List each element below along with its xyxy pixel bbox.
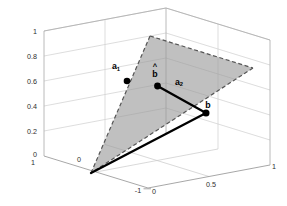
z-tick-label: 0.2 [27,127,37,136]
figure-canvas: 0 0.2 0.4 0.6 0.8 1 1 -1 0 0.5 1 0 a1 ^ … [0,0,287,206]
z-axis-tick-labels: 0 0.2 0.4 0.6 0.8 1 [27,27,37,159]
label-a1: a1 [112,61,121,72]
span-plane [91,36,253,173]
z-tick-label: 0.6 [27,77,37,86]
x-tick-label: 0 [152,187,156,196]
point-a1 [124,78,131,85]
label-a2-sub: 2 [180,81,183,87]
box-edge-y-axis [44,156,148,188]
x-tick-label: 0.5 [206,180,216,189]
x-tick-label: 1 [272,162,276,171]
3d-plot: 0 0.2 0.4 0.6 0.8 1 1 -1 0 0.5 1 0 a1 ^ … [0,0,287,206]
y-tick-label: -1 [135,186,141,195]
y-tick-label: 1 [31,158,35,167]
point-bhat [154,83,161,90]
label-b: b [205,100,211,110]
y-axis-tick-labels: 1 -1 [31,158,141,196]
z-tick-label: 0.4 [27,102,37,111]
z-tick-label: 0.8 [27,52,37,61]
point-b [203,110,210,117]
z-tick-label: 1 [33,27,37,36]
label-bhat: b [152,69,158,79]
label-origin: 0 [77,155,81,164]
